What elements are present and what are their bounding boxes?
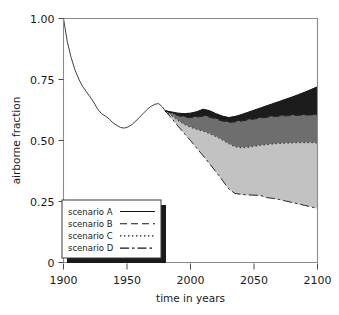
x-tick-label: 2100 <box>304 274 332 287</box>
y-tick-label: 0.50 <box>30 135 55 148</box>
y-tick-label: 0.25 <box>30 196 55 209</box>
legend-label-scenario-d: scenario D <box>68 243 114 253</box>
x-axis-label: time in years <box>156 292 225 304</box>
x-tick-label: 1950 <box>113 274 141 287</box>
airborne-fraction-chart: 00.250.500.751.0019001950200020502100 ti… <box>0 0 339 315</box>
x-tick-label: 2050 <box>240 274 268 287</box>
legend-label-scenario-a: scenario A <box>68 207 113 217</box>
x-tick-label: 1900 <box>50 274 78 287</box>
y-axis-label: airborne fraction <box>10 97 22 185</box>
chart-figure: 00.250.500.751.0019001950200020502100 ti… <box>0 0 339 315</box>
y-tick-label: 1.00 <box>30 13 55 26</box>
y-tick-label: 0 <box>48 257 55 270</box>
chart-legend[interactable]: scenario Ascenario Bscenario Cscenario D <box>62 200 166 263</box>
y-tick-label: 0.75 <box>30 74 55 87</box>
legend-label-scenario-c: scenario C <box>68 231 113 241</box>
legend-label-scenario-b: scenario B <box>68 219 113 229</box>
x-tick-label: 2000 <box>177 274 205 287</box>
